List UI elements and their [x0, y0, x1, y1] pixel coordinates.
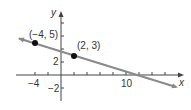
- y-axis-label: y: [50, 7, 57, 18]
- point-a-label: (−4, 5): [29, 29, 58, 40]
- point-a: [32, 40, 38, 46]
- y-tick-label-2: 2: [53, 56, 59, 67]
- point-b: [71, 53, 77, 59]
- line-arrow-right-icon: [172, 84, 179, 89]
- line-arrow-left-icon: [18, 38, 25, 43]
- graph: (−4, 5) (2, 3) y x −4 10 2 −2: [0, 0, 191, 110]
- x-axis-label: x: [178, 77, 185, 88]
- x-tick-label-10: 10: [121, 78, 133, 89]
- y-tick-label-neg2: −2: [48, 83, 60, 94]
- point-b-label: (2, 3): [77, 40, 100, 51]
- x-tick-label-neg4: −4: [28, 78, 40, 89]
- y-axis-arrow-icon: [59, 11, 64, 17]
